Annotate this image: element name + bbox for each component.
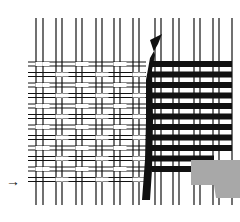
arrow-icon: → [6,173,20,189]
